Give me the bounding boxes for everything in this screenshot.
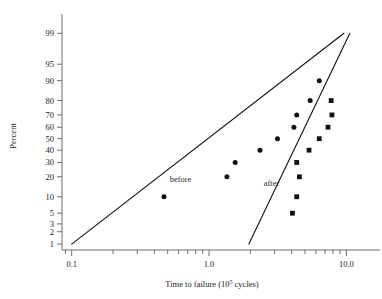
y-tick-label: 20	[46, 172, 55, 182]
data-point-after	[307, 148, 312, 153]
data-point-after	[317, 136, 322, 141]
data-point-after	[297, 174, 302, 179]
data-point-before	[294, 112, 299, 117]
annotation-before: before	[170, 174, 192, 184]
y-tick-label: 2	[50, 227, 54, 237]
x-tick-label: 0.1	[66, 259, 77, 269]
data-point-after	[330, 113, 335, 118]
x-tick-label: 1.0	[204, 259, 215, 269]
y-tick-label: 80	[46, 96, 55, 106]
annotation-after: after	[264, 178, 280, 188]
y-tick-label: 60	[46, 122, 55, 132]
plot-canvas: 99959080706050403020105321Percent0.11.01…	[0, 0, 382, 299]
y-tick-label: 99	[46, 28, 55, 38]
data-point-before	[275, 136, 280, 141]
y-tick-label: 70	[46, 110, 55, 120]
data-point-before	[233, 160, 238, 165]
probability-plot: 99959080706050403020105321Percent0.11.01…	[0, 0, 382, 299]
y-tick-label: 10	[46, 192, 55, 202]
x-tick-label: 10.0	[339, 259, 354, 269]
data-point-after	[326, 125, 331, 130]
y-tick-label: 30	[46, 157, 55, 167]
y-tick-label: 40	[46, 145, 55, 155]
y-tick-label: 95	[46, 59, 55, 69]
y-tick-label: 90	[46, 76, 55, 86]
fit-line-before	[72, 33, 344, 244]
data-point-before	[224, 174, 229, 179]
data-point-before	[308, 98, 313, 103]
x-axis-title: Time to failure (105 cycles)	[165, 279, 259, 289]
data-point-before	[257, 148, 262, 153]
data-point-after	[294, 194, 299, 199]
data-point-before	[291, 125, 296, 130]
data-point-before	[161, 194, 166, 199]
y-tick-label: 1	[50, 239, 54, 249]
data-point-after	[329, 98, 334, 103]
y-tick-label: 5	[50, 208, 54, 218]
data-point-after	[294, 160, 299, 165]
y-axis-title: Percent	[8, 123, 18, 149]
fit-line-after	[249, 33, 350, 244]
y-tick-label: 50	[46, 134, 55, 144]
data-point-before	[317, 78, 322, 83]
data-point-after	[290, 211, 295, 216]
